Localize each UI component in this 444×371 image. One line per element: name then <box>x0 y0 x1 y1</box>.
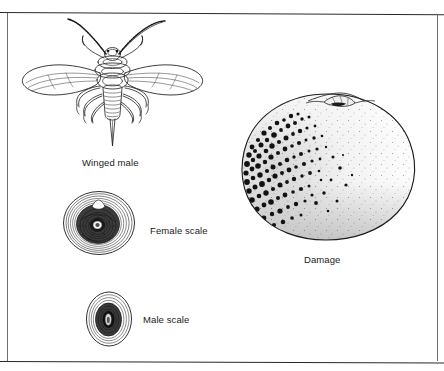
plate-right-rule <box>437 14 438 361</box>
illustration-plate: Winged male <box>0 0 444 371</box>
plate-left-rule <box>7 13 8 361</box>
caption-winged-male: Winged male <box>82 157 139 168</box>
caption-male-scale: Male scale <box>143 314 189 325</box>
figure-male-scale <box>85 291 133 347</box>
plate-top-rule <box>0 12 444 16</box>
caption-damage: Damage <box>304 254 341 265</box>
figure-winged-male <box>18 18 208 148</box>
figure-female-scale <box>62 190 136 256</box>
figure-damage <box>236 85 421 245</box>
caption-female-scale: Female scale <box>150 225 208 236</box>
plate-bottom-rule <box>0 361 444 364</box>
